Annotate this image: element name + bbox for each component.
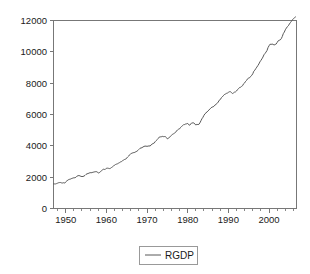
y-tick-label: 6000 — [26, 109, 47, 120]
rgdp-line-chart: 020004000600080001000012000 195019601970… — [0, 0, 310, 274]
x-tick-label: 1960 — [96, 214, 117, 225]
chart-background — [0, 0, 310, 274]
x-tick-label: 1950 — [55, 214, 76, 225]
x-tick-label: 1990 — [218, 214, 239, 225]
y-tick-label: 2000 — [26, 172, 47, 183]
y-tick-label: 12000 — [21, 15, 47, 26]
y-tick-label: 8000 — [26, 78, 47, 89]
legend-label-rgdp: RGDP — [165, 250, 194, 261]
chart-legend: RGDP — [139, 246, 197, 264]
chart-container: 020004000600080001000012000 195019601970… — [0, 0, 310, 274]
x-tick-label: 1970 — [136, 214, 157, 225]
x-tick-label: 2000 — [258, 214, 279, 225]
y-tick-label: 4000 — [26, 140, 47, 151]
x-tick-label: 1980 — [177, 214, 198, 225]
y-tick-label: 10000 — [21, 46, 47, 57]
y-tick-label: 0 — [42, 203, 47, 214]
